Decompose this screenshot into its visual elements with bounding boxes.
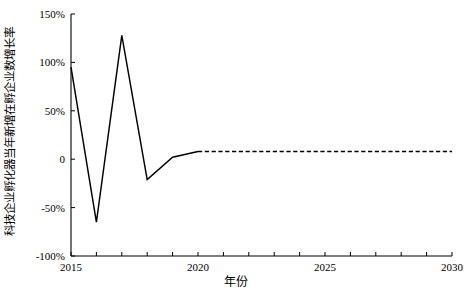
- plot-area: [0, 0, 471, 292]
- axes: [71, 14, 452, 256]
- chart-container: 科技企业孵化器当年新增在孵企业数增长率 150%100%50%0-50%-100…: [0, 0, 471, 292]
- data-series: [71, 35, 452, 222]
- axis-ticks: [71, 14, 452, 256]
- x-axis-label: 年份: [0, 272, 471, 290]
- series-line-historical: [71, 35, 198, 222]
- x-axis-label-text: 年份: [224, 275, 248, 289]
